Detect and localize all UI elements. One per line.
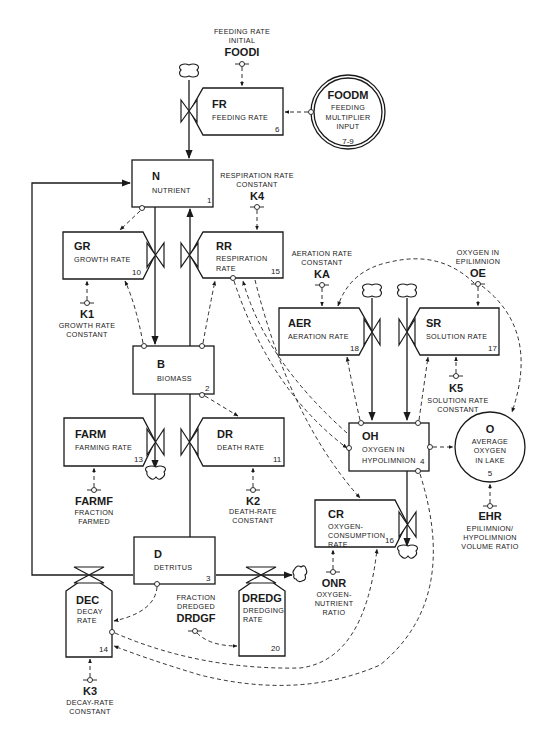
svg-text:DRDGF: DRDGF — [176, 612, 215, 624]
svg-text:2: 2 — [205, 384, 210, 393]
svg-text:NUTRIENT: NUTRIENT — [315, 599, 354, 608]
svg-text:EPILIMNION: EPILIMNION — [456, 257, 501, 266]
svg-text:4: 4 — [420, 457, 425, 466]
svg-text:10: 10 — [132, 268, 141, 277]
svg-text:ONR: ONR — [322, 577, 347, 589]
svg-text:CONSTANT: CONSTANT — [301, 258, 343, 267]
rate-DEC: DEC DECAY RATE 14 — [66, 567, 112, 657]
svg-text:AVERAGE: AVERAGE — [472, 437, 508, 446]
svg-text:5: 5 — [488, 469, 493, 478]
const-KA: AERATION RATE CONSTANT KA — [292, 249, 353, 306]
svg-text:20: 20 — [271, 644, 280, 653]
svg-text:DECAY: DECAY — [77, 607, 103, 616]
svg-text:FRACTION: FRACTION — [176, 593, 215, 602]
svg-text:K2: K2 — [246, 495, 260, 507]
rate-SR: SR SOLUTION RATE 17 — [399, 308, 499, 355]
svg-text:K4: K4 — [250, 190, 265, 202]
cloud-icon — [398, 284, 417, 297]
svg-text:AERATION RATE: AERATION RATE — [288, 332, 349, 341]
svg-text:DEATH RATE: DEATH RATE — [217, 443, 264, 452]
svg-text:RATE: RATE — [243, 615, 263, 624]
const-FARMF: FARMF FRACTION FARMED — [74, 468, 113, 526]
svg-text:13: 13 — [134, 455, 143, 464]
const-OE: OXYGEN IN EPILIMNION OE — [456, 248, 501, 306]
svg-text:K3: K3 — [83, 685, 97, 697]
rate-DR: DR DEATH RATE 11 — [181, 418, 284, 466]
svg-text:SOLUTION RATE: SOLUTION RATE — [426, 332, 487, 341]
aux-FOODM: FOODM FEEDING MULTIPLIER INPUT 7-9 — [311, 75, 385, 149]
const-K2: K2 DEATH-RATE CONSTANT — [229, 468, 277, 525]
svg-text:GR: GR — [74, 240, 91, 252]
rate-FARM: FARM FARMING RATE 13 — [64, 418, 164, 466]
svg-text:K5: K5 — [449, 382, 463, 394]
const-K3: K3 DECAY-RATE CONSTANT — [66, 659, 114, 716]
svg-text:FARMING RATE: FARMING RATE — [75, 443, 132, 452]
svg-text:OXYGEN-: OXYGEN- — [316, 590, 352, 599]
svg-text:OXYGEN IN: OXYGEN IN — [457, 248, 500, 257]
level-D: D DETRITUS 3 — [134, 537, 215, 584]
svg-text:CONSTANT: CONSTANT — [437, 405, 479, 414]
svg-text:17: 17 — [488, 344, 497, 353]
level-OH: OH OXYGEN IN HYPOLIMNION 4 — [349, 423, 429, 471]
svg-text:DEC: DEC — [76, 594, 99, 606]
svg-text:1: 1 — [207, 196, 212, 205]
svg-text:IN LAKE: IN LAKE — [475, 456, 505, 465]
const-FOODI: FEEDING RATE INITIAL FOODI — [214, 27, 270, 86]
svg-text:CONSTANT: CONSTANT — [236, 180, 278, 189]
svg-text:OE: OE — [470, 267, 486, 279]
svg-text:CONSUMPTION: CONSUMPTION — [328, 531, 385, 540]
svg-text:DR: DR — [217, 428, 233, 440]
svg-text:RR: RR — [216, 240, 232, 252]
cloud-icon — [146, 466, 166, 479]
cloud-icon — [293, 566, 307, 582]
svg-text:OH: OH — [362, 430, 379, 442]
svg-text:INPUT: INPUT — [336, 122, 359, 131]
svg-text:HYPOLIMNION: HYPOLIMNION — [463, 533, 517, 542]
svg-text:CONSTANT: CONSTANT — [232, 516, 274, 525]
svg-text:K1: K1 — [80, 308, 94, 320]
svg-text:DREDG: DREDG — [242, 592, 282, 604]
cloud-icon — [363, 284, 382, 297]
svg-text:FARM: FARM — [75, 428, 106, 440]
svg-text:SOLUTION RATE: SOLUTION RATE — [427, 396, 488, 405]
const-K4: RESPIRATION RATE CONSTANT K4 — [220, 171, 294, 230]
svg-text:RATE: RATE — [77, 616, 97, 625]
svg-text:FARMF: FARMF — [75, 495, 113, 507]
svg-text:15: 15 — [271, 267, 280, 276]
svg-text:OXYGEN-: OXYGEN- — [328, 522, 364, 531]
svg-text:FEEDING RATE: FEEDING RATE — [212, 113, 268, 122]
svg-text:SR: SR — [426, 317, 441, 329]
svg-text:O: O — [486, 423, 495, 435]
rate-AER: AER AERATION RATE 18 — [279, 308, 380, 355]
svg-text:AERATION RATE: AERATION RATE — [292, 249, 353, 258]
svg-text:AER: AER — [288, 317, 311, 329]
svg-text:7-9: 7-9 — [342, 137, 354, 146]
svg-text:RATIO: RATIO — [323, 608, 346, 617]
svg-text:RESPIRATION: RESPIRATION — [216, 254, 268, 263]
rate-RR: RR RESPIRATION RATE 15 — [181, 232, 283, 278]
svg-text:DETRITUS: DETRITUS — [154, 563, 192, 572]
svg-text:GROWTH RATE: GROWTH RATE — [74, 255, 131, 264]
svg-text:EHR: EHR — [478, 510, 501, 522]
svg-text:FR: FR — [212, 98, 227, 110]
svg-text:14: 14 — [99, 645, 108, 654]
svg-text:VOLUME RATIO: VOLUME RATIO — [461, 542, 518, 551]
lake-ecosystem-flow-diagram: N NUTRIENT 1 B BIOMASS 2 D DETRITUS 3 OH… — [0, 0, 548, 737]
const-K5: K5 SOLUTION RATE CONSTANT — [427, 357, 488, 414]
svg-text:N: N — [152, 170, 160, 182]
const-DRDGF: FRACTION DREDGED DRDGF — [176, 593, 237, 646]
rate-FR: FR FEEDING RATE 6 — [181, 88, 283, 135]
svg-text:GROWTH RATE: GROWTH RATE — [59, 321, 116, 330]
const-K1: K1 GROWTH RATE CONSTANT — [59, 281, 116, 339]
svg-text:KA: KA — [314, 268, 330, 280]
svg-text:MULTIPLIER: MULTIPLIER — [326, 113, 371, 122]
svg-text:FOODI: FOODI — [225, 46, 260, 58]
rate-CR: CR OXYGEN- CONSUMPTION RATE 16 — [315, 500, 416, 549]
svg-text:BIOMASS: BIOMASS — [157, 374, 192, 383]
svg-text:HYPOLIMNION: HYPOLIMNION — [362, 456, 416, 465]
level-B: B BIOMASS 2 — [133, 346, 214, 394]
svg-text:RESPIRATION RATE: RESPIRATION RATE — [220, 171, 294, 180]
svg-text:DREDGED: DREDGED — [177, 602, 215, 611]
svg-text:OXYGEN IN: OXYGEN IN — [362, 445, 405, 454]
cloud-icon — [180, 64, 199, 77]
